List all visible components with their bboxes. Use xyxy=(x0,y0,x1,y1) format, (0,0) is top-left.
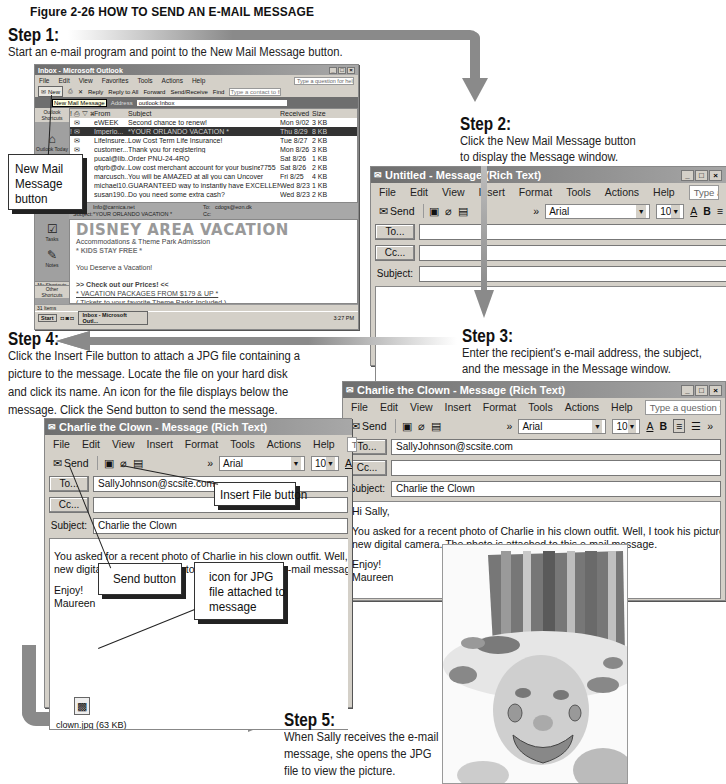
attachment-label[interactable]: clown.jpg (63 KB) xyxy=(56,719,127,730)
help-search[interactable]: Type a question for help xyxy=(689,185,719,200)
menu-insert[interactable]: Insert xyxy=(445,401,471,413)
menu-view[interactable]: View xyxy=(410,401,433,413)
font-size-select[interactable]: 10▼ xyxy=(612,419,640,434)
help-search[interactable]: Type a que xyxy=(347,437,357,452)
reply-all-button[interactable]: Reply to All xyxy=(108,89,138,95)
menu-tools[interactable]: Tools xyxy=(566,186,591,198)
menu-edit[interactable]: Edit xyxy=(410,186,428,198)
help-search[interactable]: Type a question for help xyxy=(294,77,354,85)
message-row-selected[interactable]: ! ✉Imperio...*YOUR ORLANDO VACATION *Thu… xyxy=(70,127,357,136)
bold-icon[interactable]: B xyxy=(659,420,667,432)
to-input[interactable]: SallyJohnson@scsite.com xyxy=(391,439,721,455)
font-select[interactable]: Arial▼ xyxy=(518,419,606,434)
menu-help[interactable]: Help xyxy=(653,186,675,198)
toolbar-options-icon[interactable]: » xyxy=(507,420,513,432)
toolbar-options-icon[interactable]: » xyxy=(533,205,539,217)
to-button[interactable]: To... xyxy=(375,224,415,240)
send-button[interactable]: ✉Send xyxy=(377,204,417,218)
menu-tools[interactable]: Tools xyxy=(528,401,553,413)
menu-format[interactable]: Format xyxy=(483,401,516,413)
message-row[interactable]: ✉eWEEKSecond chance to renew!Mon 9/023 K… xyxy=(70,118,357,127)
send-button[interactable]: ✉Send xyxy=(349,419,389,433)
menu-view[interactable]: View xyxy=(79,77,93,84)
font-color-icon[interactable]: A xyxy=(345,457,352,469)
address-input[interactable]: outlook:Inbox xyxy=(137,100,287,106)
menu-file[interactable]: File xyxy=(351,401,368,413)
col-subject[interactable]: Subject xyxy=(128,110,280,117)
maximize-button[interactable]: □ xyxy=(695,385,708,396)
to-button[interactable]: To... xyxy=(49,476,89,492)
menu-file[interactable]: File xyxy=(53,438,70,450)
close-button[interactable]: × xyxy=(347,67,355,74)
menu-insert[interactable]: Insert xyxy=(147,438,173,450)
font-select[interactable]: Arial▼ xyxy=(219,456,305,471)
message-row[interactable]: ✉michael10...GUARANTEED way to instantly… xyxy=(70,181,357,190)
font-select[interactable]: Arial▼ xyxy=(545,204,650,219)
font-size-select[interactable]: 10▼ xyxy=(656,204,684,219)
col-size[interactable]: Size xyxy=(312,110,336,117)
reply-button[interactable]: Reply xyxy=(88,89,103,95)
menu-edit[interactable]: Edit xyxy=(58,77,69,84)
subject-input[interactable] xyxy=(419,266,726,282)
maximize-button[interactable]: □ xyxy=(695,170,708,181)
menu-actions[interactable]: Actions xyxy=(565,401,599,413)
cc-button[interactable]: Cc... xyxy=(347,460,387,476)
menu-actions[interactable]: Actions xyxy=(267,438,301,450)
menu-help[interactable]: Help xyxy=(192,77,205,84)
shortcuts-header[interactable]: Outlook Shortcuts xyxy=(35,108,69,122)
save-icon[interactable]: ▣ xyxy=(104,457,114,469)
menu-actions[interactable]: Actions xyxy=(162,77,183,84)
print-icon[interactable]: ⎙ xyxy=(68,88,73,95)
help-search[interactable]: Type a question for help xyxy=(645,400,721,415)
align-left-icon[interactable]: ≡ xyxy=(717,205,723,217)
minimize-button[interactable]: _ xyxy=(329,67,337,74)
jpg-attachment-icon[interactable]: ▩ xyxy=(74,697,90,715)
delete-icon[interactable]: ✕ xyxy=(78,88,83,95)
menu-view[interactable]: View xyxy=(112,438,135,450)
shortcut-outlook-today[interactable]: ⌂Outlook Today xyxy=(35,132,69,152)
menu-tools[interactable]: Tools xyxy=(137,77,152,84)
start-button[interactable]: Start xyxy=(38,314,57,322)
insert-file-icon[interactable]: ⌀ xyxy=(120,457,127,469)
message-row[interactable]: ✉customer...Thank you for registeringMon… xyxy=(70,145,357,154)
menu-favorites[interactable]: Favorites xyxy=(102,77,129,84)
col-from[interactable]: From xyxy=(94,110,128,117)
taskbar-inbox-button[interactable]: Inbox - Microsoft Outl... xyxy=(78,311,148,325)
menu-tools[interactable]: Tools xyxy=(230,438,255,450)
menu-view[interactable]: View xyxy=(442,186,465,198)
other-shortcuts[interactable]: Other Shortcuts xyxy=(35,285,69,298)
find-button[interactable]: Find xyxy=(213,89,225,95)
contact-search[interactable]: Type a contact to find xyxy=(229,88,281,96)
shortcut-notes[interactable]: ✎Notes xyxy=(35,248,69,268)
message-row[interactable]: ✉marcusch...You will be AMAZED at all yo… xyxy=(70,172,357,181)
menu-help[interactable]: Help xyxy=(313,438,335,450)
cc-input[interactable] xyxy=(391,460,721,476)
message-row[interactable]: ✉pucal@lib...Order PNU-24-4RQSat 8/261 K… xyxy=(70,154,357,163)
bullets-icon[interactable]: ☰ xyxy=(691,420,701,432)
to-input[interactable] xyxy=(419,224,726,240)
menu-edit[interactable]: Edit xyxy=(380,401,398,413)
subject-input[interactable]: Charlie the Clown xyxy=(391,481,721,497)
cc-input[interactable] xyxy=(419,245,726,261)
menu-format[interactable]: Format xyxy=(185,438,218,450)
insert-file-icon[interactable]: ⌀ xyxy=(445,205,452,217)
toolbar-more-icon[interactable]: » xyxy=(707,420,713,432)
maximize-button[interactable]: □ xyxy=(338,67,346,74)
menu-format[interactable]: Format xyxy=(519,186,552,198)
message-row[interactable]: ✉gfgrb@dv...Low cost merchant account fo… xyxy=(70,163,357,172)
address-book-icon[interactable]: ▤ xyxy=(458,205,468,217)
shortcut-tasks[interactable]: ☑Tasks xyxy=(35,222,69,242)
subject-input[interactable]: Charlie the Clown xyxy=(93,518,348,534)
menu-edit[interactable]: Edit xyxy=(82,438,100,450)
address-book-icon[interactable]: ▤ xyxy=(431,420,441,432)
cc-button[interactable]: Cc... xyxy=(375,245,415,261)
menu-file[interactable]: File xyxy=(379,186,396,198)
insert-file-icon[interactable]: ⌀ xyxy=(418,420,425,432)
close-button[interactable]: × xyxy=(709,170,722,181)
minimize-button[interactable]: _ xyxy=(681,170,694,181)
send-receive-button[interactable]: Send/Receive xyxy=(170,89,207,95)
close-button[interactable]: × xyxy=(709,385,722,396)
col-received[interactable]: Received xyxy=(280,110,312,117)
align-left-icon[interactable]: ≡ xyxy=(673,419,685,433)
message-row[interactable]: ✉susan190...Do you need some extra cash?… xyxy=(70,190,357,199)
